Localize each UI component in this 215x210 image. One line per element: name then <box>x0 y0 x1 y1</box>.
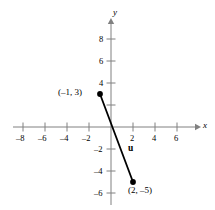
x-tick-label-6: 6 <box>174 134 178 143</box>
y-tick-label-6: 6 <box>99 57 103 66</box>
x-axis-label: x <box>203 121 207 130</box>
y-tick-label--2: –2 <box>94 145 103 154</box>
vector-plot-figure: y x –8 –6 –4 –2 2 4 6 8 6 4 –2 –4 –6 (–1… <box>0 0 215 210</box>
vector-u-label: u <box>128 144 133 154</box>
y-axis-label: y <box>113 8 117 17</box>
x-tick-label--2: –2 <box>82 134 91 143</box>
y-tick-label--6: –6 <box>94 189 103 198</box>
y-axis-arrow-icon <box>108 18 114 24</box>
x-axis-arrow-icon <box>195 124 201 130</box>
x-tick-label-2: 2 <box>130 134 134 143</box>
vector-u-segment <box>100 94 133 182</box>
coordinate-plane-svg <box>0 0 215 210</box>
x-tick-label--6: –6 <box>38 134 47 143</box>
point-marker-a <box>97 91 103 97</box>
y-tick-label-8: 8 <box>99 35 103 44</box>
x-tick-label-4: 4 <box>152 134 156 143</box>
y-tick-label--4: –4 <box>94 167 103 176</box>
point-label-a: (–1, 3) <box>58 88 82 97</box>
y-tick-label-4: 4 <box>99 79 103 88</box>
x-tick-label--8: –8 <box>16 134 25 143</box>
x-tick-label--4: –4 <box>60 134 69 143</box>
point-label-b: (2, –5) <box>128 186 152 195</box>
